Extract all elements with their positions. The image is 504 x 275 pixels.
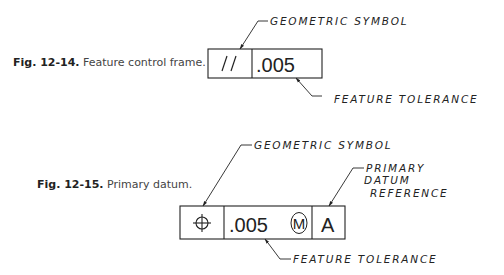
geometric-symbol-label: GEOMETRIC SYMBOL: [254, 139, 392, 151]
primary-datum-reference-callout: PRIMARY DATUM REFERENCE: [329, 162, 449, 206]
parallelism-icon: [222, 56, 236, 71]
mmc-modifier-icon: M: [291, 213, 307, 234]
fig-12-15-feature-control-frame: .005 M A: [180, 206, 345, 239]
feature-tolerance-callout: FEATURE TOLERANCE: [296, 78, 479, 105]
geometric-symbol-callout: GEOMETRIC SYMBOL: [203, 139, 392, 206]
feature-tolerance-label: FEATURE TOLERANCE: [293, 253, 438, 265]
feature-tolerance-callout: FEATURE TOLERANCE: [265, 239, 438, 265]
geometric-symbol-label: GEOMETRIC SYMBOL: [270, 15, 408, 27]
gdt-diagram: .005 GEOMETRIC SYMBOL FEATURE TOLERANCE …: [0, 0, 504, 275]
primary-datum-label-line3: REFERENCE: [370, 187, 449, 199]
modifier-letter: M: [293, 215, 306, 232]
datum-letter: A: [321, 214, 335, 236]
geometric-symbol-callout: GEOMETRIC SYMBOL: [240, 15, 408, 49]
feature-tolerance-label: FEATURE TOLERANCE: [334, 93, 479, 105]
primary-datum-label-line1: PRIMARY: [366, 162, 425, 174]
position-icon: [193, 214, 211, 232]
tolerance-value: .005: [229, 214, 268, 236]
fig-12-14-feature-control-frame: .005: [208, 49, 322, 78]
tolerance-value: .005: [256, 54, 295, 76]
primary-datum-label-line2: DATUM: [364, 174, 411, 186]
